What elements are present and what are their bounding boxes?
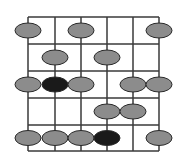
- scale-note-dot: [68, 131, 94, 146]
- root-note-dot: [42, 77, 68, 92]
- scale-note-dot: [94, 50, 120, 65]
- scale-note-dot: [42, 50, 68, 65]
- scale-note-dot: [94, 104, 120, 119]
- fretboard-diagram: [0, 0, 185, 156]
- root-note-dot: [94, 131, 120, 146]
- scale-note-dot: [42, 131, 68, 146]
- scale-note-dot: [68, 23, 94, 38]
- scale-note-dot: [68, 77, 94, 92]
- scale-note-dot: [15, 77, 41, 92]
- scale-note-dot: [15, 131, 41, 146]
- scale-note-dot: [146, 131, 172, 146]
- scale-note-dot: [120, 104, 146, 119]
- scale-note-dot: [15, 23, 41, 38]
- scale-note-dot: [146, 77, 172, 92]
- scale-note-dot: [146, 23, 172, 38]
- scale-note-dot: [120, 77, 146, 92]
- scale-notes: [15, 23, 172, 146]
